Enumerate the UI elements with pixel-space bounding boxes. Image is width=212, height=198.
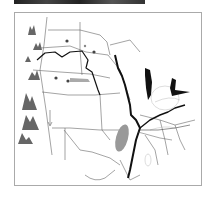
state-borders (33, 17, 195, 180)
rio-grande-arrow (48, 110, 52, 126)
ozark-highland (113, 123, 132, 153)
mississippi-river (115, 55, 140, 178)
lake-michigan (145, 68, 152, 100)
great-lakes (145, 68, 190, 100)
city-markers (54, 39, 95, 82)
lake-huron (170, 78, 190, 96)
mountain-icons (18, 25, 42, 144)
missouri-river (37, 51, 100, 95)
us-central-map (0, 0, 212, 198)
faint-contours (145, 86, 180, 166)
rivers (37, 51, 190, 178)
black-hills-band (70, 78, 90, 82)
